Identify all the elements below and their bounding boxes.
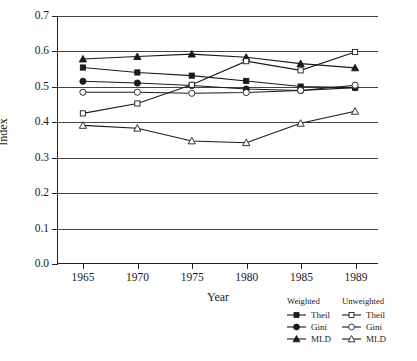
y-axis-title: Index	[0, 118, 11, 145]
data-point-marker	[351, 108, 358, 115]
legend-column: WeightedTheilGiniMLD	[286, 297, 331, 345]
x-tick-label: 1970	[126, 272, 149, 284]
series-line	[83, 68, 355, 88]
x-tick-mark	[192, 263, 193, 269]
data-point-marker	[189, 90, 195, 96]
x-tick-mark	[301, 263, 302, 269]
data-point-marker	[244, 78, 249, 83]
y-tick-mark	[52, 264, 58, 265]
legend-item-label: Theil	[311, 311, 330, 320]
legend-item[interactable]: Gini	[286, 321, 331, 333]
data-point-marker	[189, 73, 194, 78]
y-tick-label: 0.5	[35, 81, 49, 93]
data-point-marker	[134, 80, 140, 86]
x-tick-label: 1975	[181, 272, 204, 284]
open-triangle-icon	[341, 333, 363, 345]
data-point-marker	[80, 89, 86, 95]
data-point-marker	[80, 65, 85, 70]
data-point-marker	[352, 49, 357, 54]
legend-item[interactable]: MLD	[286, 333, 331, 345]
x-tick-label: 1980	[235, 272, 258, 284]
legend-item-label: Gini	[311, 323, 327, 332]
legend-item[interactable]: Theil	[341, 309, 386, 321]
data-series	[80, 65, 357, 90]
legend-column-heading: Weighted	[286, 297, 331, 306]
y-tick-label: 0.1	[35, 223, 49, 235]
y-tick-label: 0.2	[35, 187, 49, 199]
legend-item[interactable]: Gini	[341, 321, 386, 333]
y-tick-label: 0.3	[35, 152, 49, 164]
open-circle-icon	[341, 321, 363, 333]
filled-circle-icon	[286, 321, 308, 333]
data-point-marker	[80, 78, 86, 84]
data-point-marker	[80, 111, 85, 116]
data-point-marker	[298, 68, 303, 73]
data-series	[79, 108, 358, 146]
legend-item[interactable]: MLD	[341, 333, 386, 345]
open-square-icon	[341, 309, 363, 321]
data-point-marker	[189, 82, 194, 87]
x-tick-mark	[247, 263, 248, 269]
x-tick-mark	[138, 263, 139, 269]
legend-column-heading: Unweighted	[341, 297, 386, 306]
y-tick-label: 0.0	[35, 258, 49, 270]
legend-item-label: Gini	[366, 323, 382, 332]
data-point-marker	[352, 82, 358, 88]
data-point-marker	[135, 101, 140, 106]
x-axis-title: Year	[207, 290, 229, 305]
x-tick-label: 1965	[72, 272, 95, 284]
legend-column: UnweightedTheilGiniMLD	[341, 297, 386, 345]
data-series	[80, 78, 358, 93]
y-tick-label: 0.6	[35, 46, 49, 58]
y-tick-label: 0.7	[35, 10, 49, 22]
data-point-marker	[243, 89, 249, 95]
legend-item[interactable]: Theil	[286, 309, 331, 321]
series-line	[83, 111, 355, 142]
data-point-marker	[244, 59, 249, 64]
data-series	[80, 82, 358, 96]
legend-item-label: Theil	[366, 311, 385, 320]
plot-area: 0.00.10.20.30.40.50.60.7 196519701975198…	[57, 16, 378, 264]
x-tick-mark	[83, 263, 84, 269]
data-series	[79, 51, 358, 71]
data-point-marker	[298, 87, 304, 93]
x-tick-label: 1985	[290, 272, 313, 284]
x-tick-mark	[356, 263, 357, 269]
x-tick-label: 1989	[345, 272, 368, 284]
filled-triangle-icon	[286, 333, 308, 345]
filled-square-icon	[286, 309, 308, 321]
data-point-marker	[135, 70, 140, 75]
data-point-marker	[134, 89, 140, 95]
data-series-layer	[58, 16, 378, 263]
y-tick-label: 0.4	[35, 117, 49, 129]
chart-legend: WeightedTheilGiniMLDUnweightedTheilGiniM…	[286, 297, 414, 345]
legend-item-label: MLD	[366, 335, 386, 344]
chart-figure: Index 0.00.10.20.30.40.50.60.7 196519701…	[0, 0, 417, 361]
legend-item-label: MLD	[311, 335, 331, 344]
